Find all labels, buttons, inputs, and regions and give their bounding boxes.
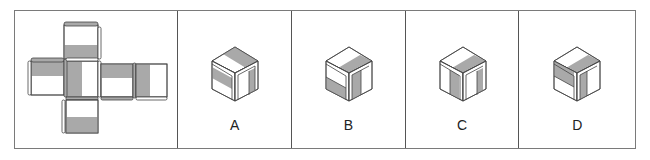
option-b-panel[interactable]: B [292, 11, 406, 148]
net-face-top [64, 22, 101, 59]
net-face-right-1 [101, 63, 136, 100]
option-label: A [178, 117, 291, 133]
option-c-cube [406, 11, 520, 111]
option-d-panel[interactable]: D [519, 11, 635, 148]
cube-folding-puzzle: A B [14, 10, 636, 149]
option-b-cube [292, 11, 406, 111]
net-face-left [28, 58, 64, 95]
cube-net-diagram [15, 11, 179, 150]
option-label: C [406, 117, 519, 133]
option-a-cube [178, 11, 292, 111]
option-a-panel[interactable]: A [178, 11, 292, 148]
net-face-right-2 [136, 64, 167, 100]
option-d-cube [519, 11, 635, 111]
net-face-center [64, 58, 101, 100]
net-face-bottom [62, 100, 98, 133]
option-c-panel[interactable]: C [406, 11, 520, 148]
net-panel [15, 11, 178, 148]
option-label: B [292, 117, 405, 133]
option-label: D [519, 117, 635, 133]
